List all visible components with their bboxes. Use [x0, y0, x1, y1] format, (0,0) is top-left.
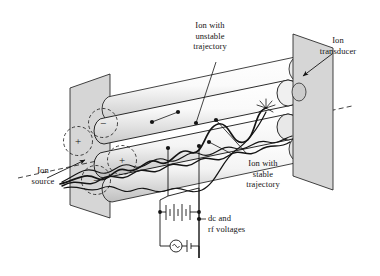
rod-sign-bottom: −	[93, 174, 99, 186]
label-ion-transducer-line1: Ion	[300, 35, 376, 46]
rod-sign-left: +	[75, 135, 81, 147]
label-stable-line1: Ion with	[222, 158, 304, 169]
label-ion-source-line2: source	[8, 176, 78, 187]
label-stable-line3: trajectory	[222, 179, 304, 190]
label-ion-source: Ion source	[8, 165, 78, 186]
label-unstable-line3: trajectory	[170, 41, 250, 52]
label-ion-transducer: Ion transducer	[300, 35, 376, 56]
label-ion-transducer-line2: transducer	[300, 46, 376, 57]
label-voltages-line2: rf voltages	[208, 224, 282, 235]
label-voltages-line1: dc and	[208, 213, 282, 224]
label-dc-rf-voltages: dc and rf voltages	[208, 213, 282, 234]
label-ion-source-line1: Ion	[8, 165, 78, 176]
label-stable-line2: stable	[222, 169, 304, 180]
rod-sign-top: −	[100, 117, 106, 129]
rod-sign-right: +	[119, 154, 125, 166]
label-unstable-line1: Ion with	[170, 20, 250, 31]
label-unstable-trajectory: Ion with unstable trajectory	[170, 20, 250, 52]
quadrupole-mass-filter-figure: − + − + Ion source Ion transducer Ion wi…	[0, 0, 380, 276]
label-unstable-line2: unstable	[170, 31, 250, 42]
label-stable-trajectory: Ion with stable trajectory	[222, 158, 304, 190]
